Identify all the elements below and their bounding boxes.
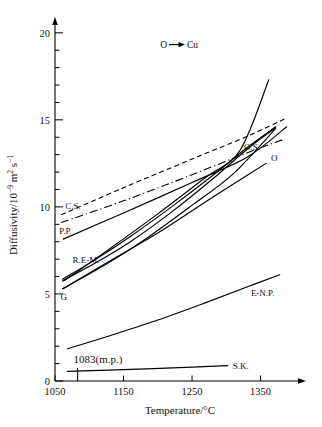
y-tick-label: 15 bbox=[40, 115, 51, 126]
x-tick-label: 1350 bbox=[250, 386, 271, 397]
y-axis-title: Diffusivity/10−9 m2 s−1 bbox=[6, 155, 20, 255]
y-ticklabel-group: 05101520 bbox=[40, 28, 51, 387]
series-label-o: O bbox=[271, 153, 278, 163]
series-label-p-p-: P.P. bbox=[59, 226, 72, 236]
series-curve-s-k- bbox=[67, 366, 227, 372]
melting-point-label: 1083(m.p.) bbox=[74, 353, 123, 366]
series-curve-o-s- bbox=[64, 80, 269, 281]
y-axis-title-group: Diffusivity/10−9 m2 s−1 bbox=[6, 155, 20, 255]
series-label-c-s-: C.S. bbox=[65, 201, 81, 211]
species-annotation: O Cu bbox=[160, 40, 198, 50]
y-tick-group bbox=[55, 33, 63, 381]
series-label-e-n-p-: E-N.P. bbox=[251, 288, 275, 298]
series-label-s-k-: S.K. bbox=[233, 361, 249, 371]
x-axis-title: Temperature/°C bbox=[145, 404, 215, 416]
annotation-arrow-icon bbox=[179, 42, 186, 47]
y-tick-label: 20 bbox=[40, 28, 51, 39]
series-curve-c-s- bbox=[61, 119, 284, 215]
series-label-g: G bbox=[61, 292, 68, 302]
series-label-o-s-: O.S. bbox=[244, 142, 260, 152]
chart-svg: 05101520 1050115012501350 1083(m.p.) C.S… bbox=[0, 0, 322, 427]
x-tick-group bbox=[55, 376, 261, 382]
y-tick-label: 10 bbox=[40, 202, 51, 213]
melting-point-marker: 1083(m.p.) bbox=[74, 353, 123, 381]
x-tick-label: 1050 bbox=[45, 386, 66, 397]
annotation-species: O bbox=[160, 40, 167, 50]
y-axis-arrowhead bbox=[52, 17, 58, 25]
series-label-r-e-m-: R.E-M. bbox=[73, 255, 100, 265]
annotation-target: Cu bbox=[187, 40, 198, 50]
y-tick-label: 5 bbox=[45, 289, 50, 300]
series-curve-e-n-p- bbox=[67, 275, 279, 349]
x-tick-label: 1150 bbox=[113, 386, 134, 397]
diffusivity-vs-temperature-chart: 05101520 1050115012501350 1083(m.p.) C.S… bbox=[0, 0, 322, 427]
axes-group bbox=[52, 17, 306, 384]
x-ticklabel-group: 1050115012501350 bbox=[45, 386, 272, 397]
x-axis-arrowhead bbox=[298, 378, 306, 384]
series-curves-group bbox=[61, 80, 286, 372]
x-tick-label: 1250 bbox=[182, 386, 203, 397]
